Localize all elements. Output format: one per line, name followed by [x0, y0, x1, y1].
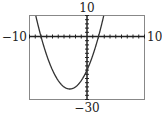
parabola-curve [36, 16, 104, 89]
ymin-label: −30 [74, 101, 99, 114]
ymax-label: 10 [79, 1, 94, 15]
xmin-label: −10 [2, 30, 27, 44]
xmax-label: 10 [147, 30, 162, 44]
graph-window: 10 −30 −10 10 [0, 0, 162, 114]
